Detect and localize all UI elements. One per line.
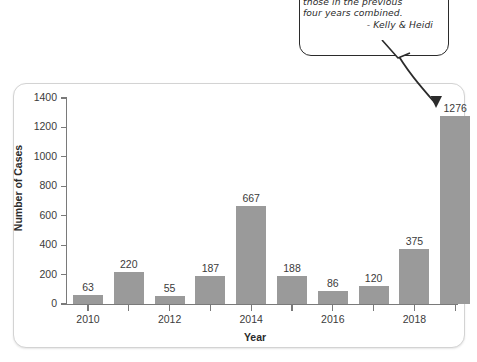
annotation-callout-text: in 2019 exceeded those in the previous f… <box>303 0 446 30</box>
bar-value-2014: 667 <box>228 192 274 204</box>
x-tick <box>251 305 252 311</box>
x-tick-label-2018: 2018 <box>389 313 439 325</box>
annotation-callout-tail-icon <box>380 40 420 64</box>
x-tick <box>291 305 292 311</box>
bar-value-2016: 86 <box>310 277 356 289</box>
x-tick <box>332 305 333 311</box>
x-axis-line <box>66 304 458 305</box>
bar-2014 <box>236 206 266 304</box>
y-tick <box>61 156 67 157</box>
y-tick-label: 0 <box>13 297 57 309</box>
y-tick <box>61 274 67 275</box>
y-axis-title: Number of Cases <box>12 123 24 253</box>
y-tick <box>61 215 67 216</box>
x-tick <box>128 305 129 311</box>
x-tick <box>373 305 374 311</box>
y-tick-label: 200 <box>13 268 57 280</box>
bar-value-2012: 55 <box>147 282 193 294</box>
x-tick <box>455 305 456 311</box>
annotation-line-3: four years combined. <box>303 7 403 18</box>
bar-value-2018: 375 <box>391 235 437 247</box>
bar-2011 <box>114 272 144 304</box>
y-tick <box>61 97 67 98</box>
bar-2013 <box>195 276 225 304</box>
annotation-signature: - Kelly & Heidi <box>303 19 446 31</box>
annotation-line-2: those in the previous <box>303 0 402 7</box>
x-tick-label-2014: 2014 <box>226 313 276 325</box>
bar-2019 <box>440 116 470 304</box>
y-tick <box>61 303 67 304</box>
x-tick-label-2016: 2016 <box>308 313 358 325</box>
bar-2010 <box>73 295 103 304</box>
y-tick <box>61 127 67 128</box>
x-tick <box>169 305 170 311</box>
x-axis-title: Year <box>205 331 305 343</box>
bar-2015 <box>277 276 307 304</box>
bar-value-2015: 188 <box>269 262 315 274</box>
y-tick <box>61 186 67 187</box>
x-tick-label-2012: 2012 <box>145 313 195 325</box>
y-tick-label: 1400 <box>13 91 57 103</box>
y-tick <box>61 245 67 246</box>
bar-2018 <box>399 249 429 304</box>
bar-value-2010: 63 <box>65 281 111 293</box>
bar-value-2013: 187 <box>187 262 233 274</box>
x-tick-label-2010: 2010 <box>63 313 113 325</box>
bar-value-2017: 120 <box>351 272 397 284</box>
x-tick <box>87 305 88 311</box>
x-tick <box>210 305 211 311</box>
bar-value-2011: 220 <box>106 258 152 270</box>
bar-2017 <box>359 286 389 304</box>
bar-2012 <box>155 296 185 304</box>
x-tick <box>414 305 415 311</box>
bar-2016 <box>318 291 348 304</box>
